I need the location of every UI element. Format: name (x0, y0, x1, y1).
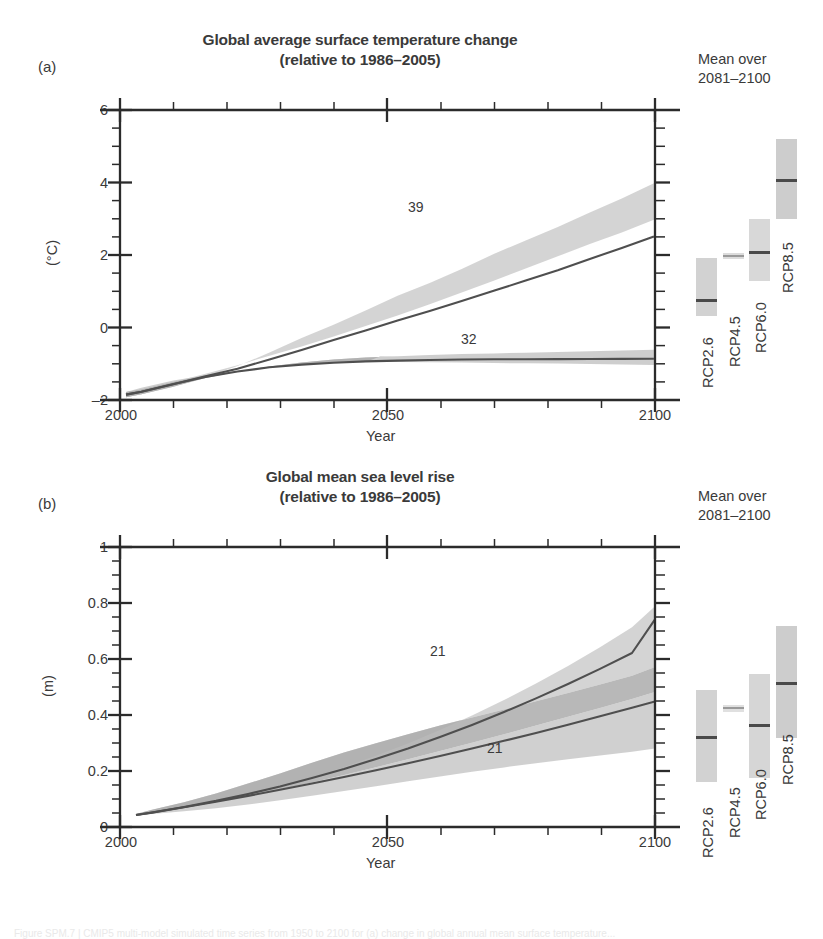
panel-b-bar-rcp45-mean (723, 707, 744, 709)
panel-a-mean-over-line1: Mean over (698, 50, 767, 69)
panel-a-right-major-ticks (655, 183, 670, 328)
panel-b-bar-label-rcp60: RCP6.0 (753, 769, 769, 820)
panel-b-mean-over-line2: 2081–2100 (698, 506, 771, 525)
panel-b-mean-over-line1: Mean over (698, 487, 767, 506)
panel-b-series-label-lower-21: 21 (487, 740, 503, 756)
panel-b-y-minor-ticks (112, 561, 120, 813)
panel-b-title-line1: Global mean sea level rise (140, 467, 580, 487)
panel-a-line-rcp26 (126, 359, 654, 395)
panel-a-bar-label-rcp60: RCP6.0 (753, 302, 769, 353)
panel-b-right-minor-ticks (655, 561, 665, 813)
panel-a-bar-rcp85-mean (776, 179, 797, 182)
panel-a-band-rcp26 (126, 350, 654, 397)
panel-b-series-label-upper-21: 21 (430, 643, 446, 659)
panel-a-mean-over-line2: 2081–2100 (698, 69, 771, 88)
panel-a-bar-label-rcp26: RCP2.6 (700, 337, 716, 388)
panel-a-x-major-ticks (120, 98, 655, 412)
panel-b-bar-rcp85-mean (776, 682, 797, 685)
panel-a-tag: (a) (38, 58, 56, 75)
panel-a-title-line1: Global average surface temperature chang… (140, 30, 580, 50)
panel-a-bar-rcp45-mean (723, 255, 744, 257)
panel-b-bar-rcp60-mean (749, 724, 770, 727)
panel-a-x-axis-title: Year (366, 428, 395, 444)
panel-b-bar-rcp26 (696, 690, 717, 782)
panel-b-bar-rcp85 (776, 626, 797, 738)
panel-b-bar-label-rcp45: RCP4.5 (727, 787, 743, 838)
panel-a-band-rcp85 (126, 183, 654, 397)
panel-a-series-label-32: 32 (461, 331, 477, 347)
figure-caption: Figure SPM.7 | CMIP5 multi-model simulat… (14, 928, 809, 939)
panel-a-bar-rcp60 (749, 219, 770, 281)
panel-b-bar-label-rcp85: RCP8.5 (780, 734, 796, 785)
panel-b-bar-rcp26-mean (696, 736, 717, 739)
panel-a-bar-rcp45 (723, 253, 744, 259)
panel-b-bar-label-rcp26: RCP2.6 (700, 807, 716, 858)
panel-a-title-line2: (relative to 1986–2005) (140, 50, 580, 70)
panel-b-y-axis-title: (m) (40, 666, 56, 706)
panel-b-title-line2: (relative to 1986–2005) (140, 487, 580, 507)
panel-a-plot (60, 90, 760, 430)
panel-b-tag: (b) (38, 495, 56, 512)
panel-a-bar-label-rcp85: RCP8.5 (780, 242, 796, 293)
panel-b-plot (60, 527, 760, 857)
panel-b-x-axis-title: Year (366, 855, 395, 871)
panel-a-bar-rcp60-mean (749, 251, 770, 254)
panel-a-bar-rcp26-mean (696, 299, 717, 302)
panel-a-bar-label-rcp45: RCP4.5 (727, 316, 743, 367)
panel-a-y-axis-title: (°C) (44, 233, 60, 273)
panel-a-bar-rcp26 (696, 258, 717, 316)
panel-b-bar-rcp60 (749, 674, 770, 778)
panel-a-series-label-39: 39 (408, 199, 424, 215)
panel-b-bar-rcp45 (723, 705, 744, 712)
panel-a-bar-rcp85 (776, 139, 797, 219)
